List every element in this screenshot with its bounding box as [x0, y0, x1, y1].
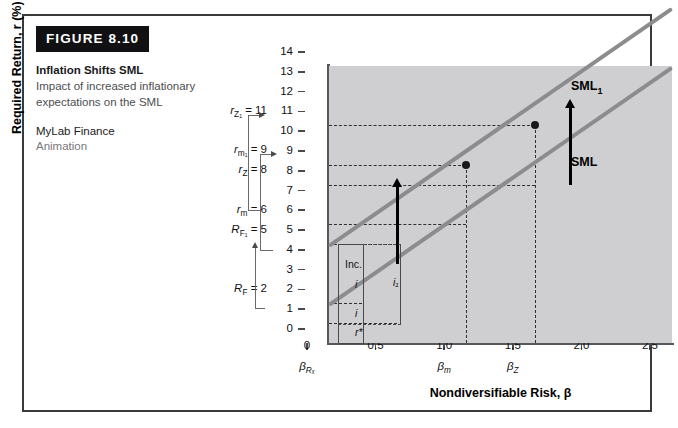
- sml1-label: SML1: [571, 79, 602, 96]
- y-axis-title: Required Return, r (%): [10, 1, 24, 134]
- plot-area: Inc. i i i₁ r* SML1 SML: [329, 66, 672, 343]
- y-tick-label-13: 13: [267, 66, 293, 78]
- figure-frame: FIGURE 8.10 Inflation Shifts SML Impact …: [22, 14, 652, 412]
- y-tick-11: [298, 111, 305, 113]
- inc-label: Inc.: [345, 258, 362, 270]
- y-tick-14: [298, 51, 305, 53]
- figure-subtitle: Impact of increased inflationary expecta…: [36, 79, 206, 110]
- figure-number-badge: FIGURE 8.10: [36, 26, 149, 52]
- i1-box: [338, 244, 401, 325]
- x-annotation-betaRF: βRₓ: [299, 360, 315, 375]
- resource-kind: Animation: [36, 139, 206, 154]
- bracket-rz1-arrowhead: [259, 112, 265, 118]
- inc-i-label: i: [355, 278, 357, 290]
- y-tick-3: [298, 269, 305, 271]
- y-tick-13: [298, 71, 305, 73]
- figure-title: Inflation Shifts SML: [36, 63, 206, 78]
- y-tick-0: [298, 328, 305, 330]
- y-tick-8: [298, 170, 305, 172]
- r-star-label: r*: [355, 326, 363, 338]
- y-tick-label-2: 2: [267, 283, 293, 295]
- y-tick-1: [298, 308, 305, 310]
- figure-resource: MyLab Finance Animation: [36, 124, 206, 155]
- y-tick-7: [298, 190, 305, 192]
- bracket-rf-to-rf1: [255, 248, 265, 309]
- y-tick-label-3: 3: [267, 264, 293, 276]
- y-tick-label-11: 11: [267, 105, 293, 117]
- bracket-rz-to-rz1: [248, 115, 261, 211]
- guide-v-beta-m: [466, 165, 467, 343]
- x-tick-label-0: 0: [304, 339, 310, 351]
- bracket-rm1-arrowhead: [271, 151, 277, 157]
- y-tick-5: [298, 229, 305, 231]
- y-tick-label-1: 1: [267, 303, 293, 315]
- x-axis-title: Nondiversifiable Risk, β: [329, 386, 672, 400]
- resource-name: MyLab Finance: [36, 124, 206, 139]
- y-tick-2: [298, 289, 305, 291]
- data-point-rz1: [531, 121, 539, 129]
- shift-arrow-right: [569, 106, 572, 185]
- y-tick-4: [298, 249, 305, 251]
- y-tick-label-14: 14: [267, 46, 293, 58]
- x-annotation-betaZ: βZ: [507, 360, 519, 375]
- y-tick-label-10: 10: [267, 125, 293, 137]
- y-tick-12: [298, 91, 305, 93]
- sml1-line: [328, 7, 673, 248]
- i1-label: i₁: [393, 276, 399, 288]
- bracket-rm-to-rm1: [260, 154, 273, 251]
- y-tick-9: [298, 150, 305, 152]
- y-tick-10: [298, 130, 305, 132]
- data-point-rm1: [462, 161, 470, 169]
- figure-caption-block: FIGURE 8.10 Inflation Shifts SML Impact …: [36, 26, 206, 155]
- i-label: i: [355, 307, 357, 319]
- y-tick-label-12: 12: [267, 86, 293, 98]
- bracket-rf1-arrowhead: [252, 242, 258, 248]
- x-annotation-betam: βm: [437, 360, 450, 375]
- y-tick-label-0: 0: [267, 323, 293, 335]
- y-annotation-RF1: RF₁ = 5: [195, 224, 267, 239]
- y-tick-6: [298, 209, 305, 211]
- sml-label: SML: [571, 155, 597, 169]
